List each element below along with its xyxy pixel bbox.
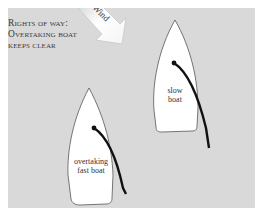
fast-boat-mast-icon <box>92 126 97 131</box>
title-line-2: Overtaking boat <box>8 29 77 40</box>
slow-boat-mast-icon <box>172 61 177 66</box>
title-line-1: Rights of way: <box>8 18 77 29</box>
slow-boat-label-line2: boat <box>168 95 183 104</box>
fast-boat-label-line1: overtaking <box>74 157 108 166</box>
title-line-3: keeps clear <box>8 40 77 51</box>
fast-boat: overtaking fast boat <box>68 88 126 205</box>
fast-boat-label-line2: fast boat <box>77 166 105 175</box>
slow-boat: slow boat <box>154 20 209 148</box>
wind-arrow-icon: Wind <box>76 0 126 44</box>
diagram-title: Rights of way: Overtaking boat keeps cle… <box>8 18 77 51</box>
slow-boat-label-line1: slow <box>167 86 182 95</box>
